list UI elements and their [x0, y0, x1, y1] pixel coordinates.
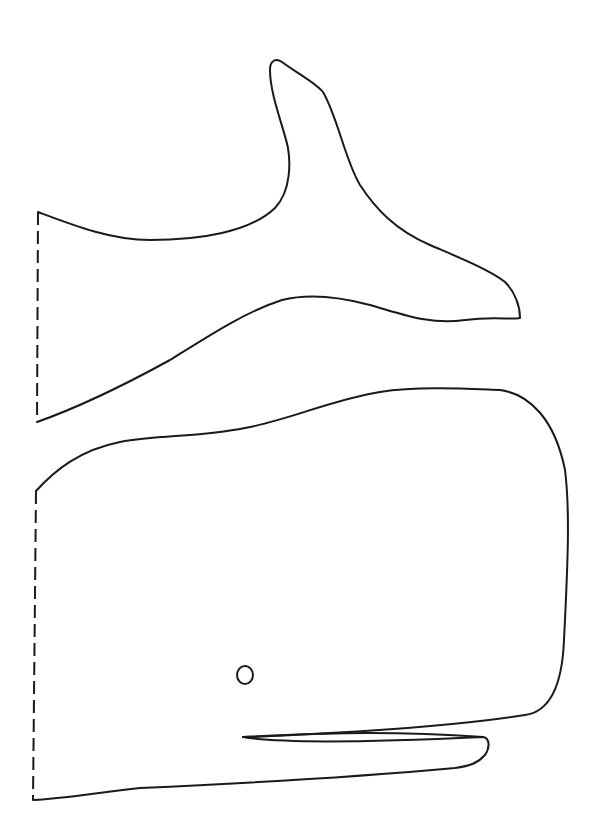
body-fold-line	[33, 491, 36, 800]
tail-fold-line	[37, 212, 38, 422]
tail-outline	[37, 60, 520, 422]
body-outline	[33, 388, 568, 800]
tail-piece	[37, 60, 520, 422]
eye-circle	[237, 666, 253, 684]
template-page: Whale cutout template Whale tail piece W…	[0, 0, 602, 836]
whale-template-drawing	[0, 0, 602, 836]
body-piece	[33, 388, 568, 800]
